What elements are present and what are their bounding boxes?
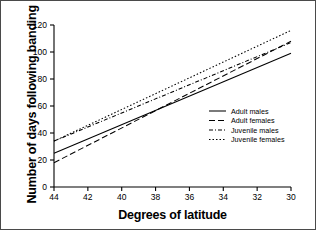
y-tick-label: 100 (33, 47, 47, 57)
series-line-adult-females (54, 41, 291, 163)
y-tick-label: 0 (42, 182, 47, 192)
y-tick-label: 120 (33, 20, 47, 30)
x-tick-label: 36 (185, 192, 195, 202)
y-tick-label: 40 (38, 128, 48, 138)
x-tick-label: 30 (286, 192, 296, 202)
x-tick-label: 44 (49, 192, 59, 202)
x-tick-label: 34 (219, 192, 229, 202)
y-tick-label: 80 (38, 74, 48, 84)
legend-label-juvenile-males: Juvenile males (231, 126, 279, 135)
chart-figure: Number of days following banding Degrees… (0, 0, 316, 230)
x-tick-label: 38 (151, 192, 161, 202)
legend-label-adult-males: Adult males (231, 107, 269, 116)
y-tick-label: 20 (38, 155, 48, 165)
y-tick-label: 60 (38, 101, 48, 111)
x-tick-label: 42 (83, 192, 93, 202)
legend-label-adult-females: Adult females (231, 116, 275, 125)
legend-label-juvenile-females: Juvenile females (231, 135, 285, 144)
plot-area: 0204060801001204442403836343230Adult mal… (1, 1, 316, 230)
x-tick-label: 32 (252, 192, 262, 202)
x-tick-label: 40 (117, 192, 127, 202)
